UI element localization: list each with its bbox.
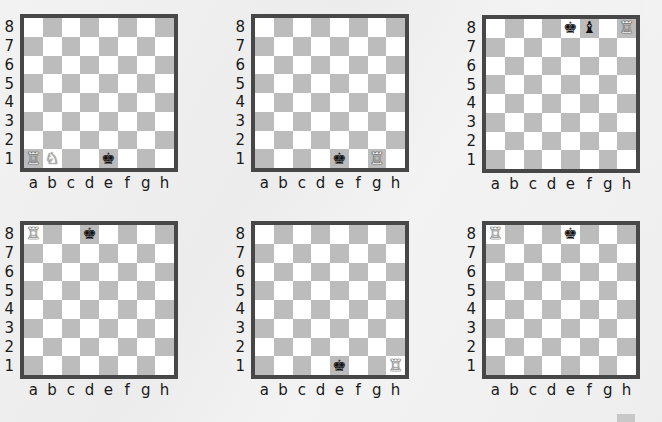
chessboard: ♖♚ — [20, 221, 178, 379]
square-e2 — [99, 338, 118, 357]
square-e2 — [330, 131, 349, 150]
square-f6 — [580, 263, 599, 282]
square-b2 — [43, 338, 62, 357]
chessboard: ♖♚ — [482, 221, 640, 379]
file-label: h — [155, 174, 174, 192]
rank-label: 1 — [0, 149, 16, 168]
square-g1 — [137, 149, 156, 168]
square-e6 — [561, 263, 580, 282]
square-f6 — [580, 57, 599, 76]
rank-label: 2 — [0, 131, 16, 150]
square-d8: ♚ — [80, 225, 99, 244]
square-a3 — [24, 112, 43, 131]
square-d4 — [311, 300, 330, 319]
square-b4 — [505, 94, 524, 113]
square-c5 — [62, 74, 81, 93]
square-f3 — [580, 113, 599, 132]
square-f4 — [349, 300, 368, 319]
square-d7 — [542, 38, 561, 57]
black-king-icon: ♚ — [82, 226, 96, 242]
square-b7 — [274, 244, 293, 263]
square-f8 — [118, 18, 137, 37]
chess-diagram-6: 87654321♖♚abcdefgh — [462, 221, 662, 421]
rank-labels: 87654321 — [231, 18, 247, 168]
square-h6 — [386, 263, 405, 282]
square-c4 — [62, 93, 81, 112]
square-g3 — [368, 112, 387, 131]
file-label: b — [505, 381, 524, 399]
square-e6 — [99, 56, 118, 75]
file-label: d — [542, 175, 561, 193]
square-b8 — [43, 225, 62, 244]
square-f8 — [349, 18, 368, 37]
chess-diagram-4: 87654321♖♚abcdefgh — [0, 221, 200, 421]
square-h3 — [386, 319, 405, 338]
square-h1 — [155, 356, 174, 375]
square-f6 — [349, 56, 368, 75]
square-a3 — [486, 113, 505, 132]
chess-diagram-1: 87654321♖♘♚abcdefgh — [0, 14, 200, 214]
rank-label: 1 — [231, 356, 247, 375]
square-e4 — [99, 300, 118, 319]
rank-label: 3 — [462, 319, 478, 338]
square-f4 — [118, 93, 137, 112]
rank-label: 7 — [462, 244, 478, 263]
square-f7 — [118, 244, 137, 263]
square-h4 — [617, 300, 636, 319]
square-a1: ♖ — [24, 149, 43, 168]
square-f7 — [580, 38, 599, 57]
rank-label: 1 — [462, 150, 478, 169]
square-d5 — [80, 74, 99, 93]
square-f3 — [349, 319, 368, 338]
square-h4 — [155, 93, 174, 112]
square-a2 — [486, 338, 505, 357]
file-label: f — [118, 381, 137, 399]
rank-label: 8 — [231, 225, 247, 244]
square-d4 — [80, 93, 99, 112]
square-c1 — [62, 356, 81, 375]
square-e5 — [561, 281, 580, 300]
square-d2 — [542, 132, 561, 151]
square-d8 — [542, 19, 561, 38]
square-g7 — [368, 37, 387, 56]
square-b6 — [274, 56, 293, 75]
square-c2 — [62, 131, 81, 150]
file-label: a — [486, 381, 505, 399]
square-f6 — [118, 56, 137, 75]
file-label: b — [43, 174, 62, 192]
white-rook-icon: ♖ — [619, 20, 633, 36]
square-h5 — [386, 74, 405, 93]
square-b2 — [505, 132, 524, 151]
white-rook-icon: ♖ — [26, 151, 40, 167]
file-labels: abcdefgh — [255, 174, 405, 192]
square-a8 — [255, 225, 274, 244]
square-b3 — [43, 112, 62, 131]
square-d3 — [542, 113, 561, 132]
square-b5 — [505, 281, 524, 300]
square-h1: ♖ — [386, 356, 405, 375]
file-label: g — [137, 174, 156, 192]
square-a7 — [255, 244, 274, 263]
square-f1 — [118, 356, 137, 375]
square-c2 — [293, 338, 312, 357]
square-a8 — [255, 18, 274, 37]
square-g3 — [599, 113, 618, 132]
square-a3 — [486, 319, 505, 338]
square-f7 — [349, 244, 368, 263]
rank-label: 8 — [462, 225, 478, 244]
square-f2 — [349, 131, 368, 150]
square-b5 — [43, 74, 62, 93]
rank-label: 5 — [462, 281, 478, 300]
square-d1 — [311, 356, 330, 375]
square-f6 — [349, 263, 368, 282]
square-a4 — [24, 300, 43, 319]
square-c6 — [293, 263, 312, 282]
square-g3 — [137, 112, 156, 131]
rank-label: 5 — [462, 75, 478, 94]
square-e1: ♚ — [330, 149, 349, 168]
file-label: g — [137, 381, 156, 399]
square-c1 — [524, 356, 543, 375]
square-a8: ♖ — [486, 225, 505, 244]
square-g8 — [137, 225, 156, 244]
square-b7 — [505, 38, 524, 57]
